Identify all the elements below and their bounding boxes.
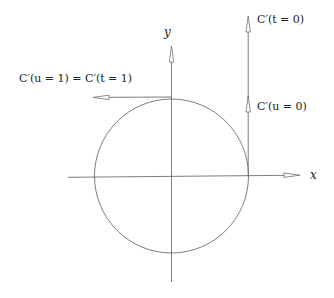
label-tangent-u0: C′(u = 0) — [257, 101, 307, 113]
diagram-canvas — [0, 0, 334, 298]
x-axis — [68, 175, 288, 177]
tangent-u0-arrow-icon — [246, 96, 250, 112]
tangent-u1-arrow-icon — [93, 95, 109, 99]
label-tangent-u1: C′(u = 1) = C′(t = 1) — [19, 73, 132, 85]
x-axis-label: x — [310, 169, 317, 181]
label-tangent-t0: C′(t = 0) — [257, 14, 304, 26]
y-axis-label: y — [164, 26, 171, 38]
x-axis-arrow-icon — [284, 173, 300, 177]
y-axis-arrow-icon — [169, 46, 173, 62]
tangent-t0-arrow-icon — [246, 16, 250, 32]
